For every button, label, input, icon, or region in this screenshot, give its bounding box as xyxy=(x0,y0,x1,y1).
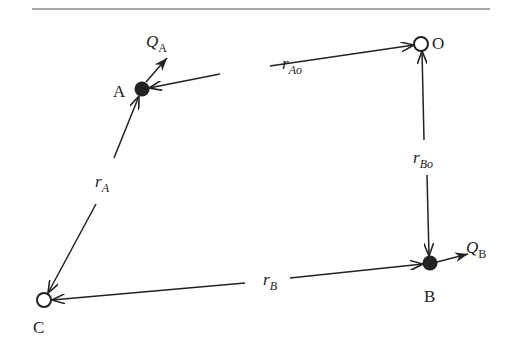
edge-rB-main: r xyxy=(263,270,270,289)
node-O-label: O xyxy=(432,35,444,52)
node-A-label: A xyxy=(113,83,125,100)
node-C-circle xyxy=(37,293,51,307)
flow-QA-sub: A xyxy=(158,41,167,55)
flow-QB-main: Q xyxy=(466,238,478,257)
edge-rB-arrow-to-B xyxy=(290,264,423,278)
flow-QB-sub: B xyxy=(478,247,486,261)
edge-rAo-sub: Ao xyxy=(289,63,302,77)
edge-rA-arrow-to-A xyxy=(114,96,139,158)
node-O-circle xyxy=(414,37,428,51)
flow-QA-arrow xyxy=(146,58,167,82)
edge-rAo-main: r xyxy=(282,54,289,73)
node-B-label: B xyxy=(424,288,435,305)
edge-rB-label: rB xyxy=(263,271,277,288)
node-B-dot xyxy=(423,256,438,271)
edge-rBo-sub: Bo xyxy=(420,157,433,171)
flow-QA-main: Q xyxy=(146,32,158,51)
edge-rAo-arrow-to-A xyxy=(149,74,220,88)
flow-QB-label: QB xyxy=(466,239,486,256)
edge-rB-arrow-to-C xyxy=(52,283,245,300)
edge-rB-sub: B xyxy=(270,279,277,293)
edge-rA-arrow-to-C xyxy=(48,204,96,293)
edge-rA-label: rA xyxy=(95,173,109,190)
edge-rAo-label: rAo xyxy=(282,55,302,72)
edge-rBo-arrow-to-B xyxy=(427,175,429,256)
edge-rA-main: r xyxy=(95,172,102,191)
flow-QB-arrow xyxy=(437,254,468,262)
node-A-dot xyxy=(135,82,150,97)
edge-rA-sub: A xyxy=(102,181,109,195)
edge-rBo-label: rBo xyxy=(413,149,433,166)
flow-QA-label: QA xyxy=(146,33,167,50)
edge-rBo-arrow-to-O xyxy=(422,51,424,140)
node-C-label: C xyxy=(33,319,44,336)
edge-rBo-main: r xyxy=(413,148,420,167)
